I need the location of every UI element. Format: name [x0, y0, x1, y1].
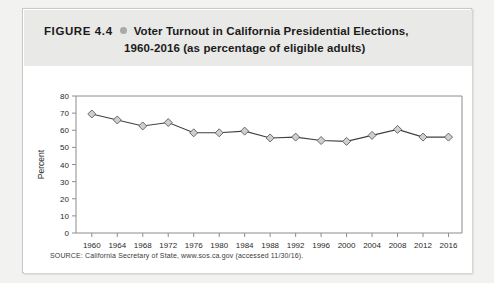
x-axis-tick-label: 2000	[338, 241, 356, 250]
data-point-marker	[394, 125, 402, 133]
data-point-marker	[139, 122, 147, 130]
y-axis-tick-label: 30	[60, 178, 69, 187]
x-axis-tick-label: 1992	[287, 241, 305, 250]
data-point-marker	[419, 133, 427, 141]
x-axis: 1960196419681972197619801984198819921996…	[76, 96, 462, 250]
figure-number-label: FIGURE 4.4	[44, 25, 113, 37]
data-point-marker	[317, 137, 325, 145]
figure-title-line-1: Voter Turnout in California Presidential…	[134, 25, 409, 37]
data-point-marker	[113, 116, 121, 124]
data-point-marker	[343, 137, 351, 145]
y-axis-tick-label: 40	[60, 161, 69, 170]
figure-root: FIGURE 4.4Voter Turnout in California Pr…	[0, 0, 494, 283]
x-axis-tick-label: 1972	[159, 241, 177, 250]
x-axis-tick-label: 2016	[440, 241, 458, 250]
y-axis-tick-label: 80	[60, 92, 69, 101]
y-axis-tick-label: 20	[60, 195, 69, 204]
x-axis-tick-label: 2008	[389, 241, 407, 250]
data-point-marker	[215, 129, 223, 137]
figure-header: FIGURE 4.4Voter Turnout in California Pr…	[24, 10, 472, 66]
y-axis-tick-label: 60	[60, 126, 69, 135]
x-axis-tick-label: 1980	[210, 241, 228, 250]
x-axis-tick-label: 1996	[312, 241, 330, 250]
y-axis-tick-label: 0	[65, 229, 70, 238]
data-series-voter-turnout	[88, 110, 453, 145]
data-point-marker	[88, 110, 96, 118]
figure-title-line-2: 1960-2016 (as percentage of eligible adu…	[124, 41, 458, 56]
data-point-marker	[444, 133, 452, 141]
figure-title-block: FIGURE 4.4Voter Turnout in California Pr…	[44, 21, 458, 56]
x-axis-tick-label: 1968	[134, 241, 152, 250]
data-point-marker	[190, 129, 198, 137]
x-axis-tick-label: 2012	[414, 241, 432, 250]
plot-region: 01020304050607080 1960196419681972197619…	[24, 66, 472, 273]
source-note: SOURCE: California Secretary of State, w…	[50, 252, 303, 259]
x-axis-tick-label: 1984	[236, 241, 254, 250]
data-point-marker	[164, 119, 172, 127]
line-chart: 01020304050607080 1960196419681972197619…	[24, 66, 472, 273]
y-axis-tick-label: 10	[60, 212, 69, 221]
bullet-dot-icon	[120, 27, 127, 34]
data-point-marker	[292, 133, 300, 141]
x-axis-tick-label: 2004	[363, 241, 381, 250]
y-axis: 01020304050607080	[60, 92, 76, 238]
x-axis-tick-label: 1976	[185, 241, 203, 250]
data-point-marker	[266, 134, 274, 142]
x-axis-tick-label: 1964	[108, 241, 126, 250]
y-axis-tick-label: 70	[60, 109, 69, 118]
y-axis-title: Percent	[36, 149, 46, 179]
figure-card: FIGURE 4.4Voter Turnout in California Pr…	[22, 8, 472, 273]
y-axis-tick-label: 50	[60, 143, 69, 152]
data-point-marker	[241, 127, 249, 135]
data-point-marker	[368, 131, 376, 139]
x-axis-tick-label: 1960	[83, 241, 101, 250]
x-axis-tick-label: 1988	[261, 241, 279, 250]
